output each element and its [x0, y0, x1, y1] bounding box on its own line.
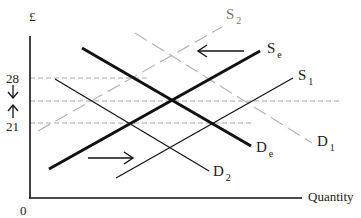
d2-subscript: 2	[226, 172, 231, 183]
s2-letter: S	[226, 6, 234, 22]
y-axis-label: £	[29, 10, 36, 23]
d1-letter: D	[317, 133, 328, 149]
demand-shift-right-arrow-icon	[88, 152, 133, 164]
s1-letter: S	[298, 67, 306, 83]
s2-subscript: 2	[236, 15, 241, 26]
s1-label: S1	[298, 68, 313, 83]
se-letter: S	[267, 40, 275, 56]
s1-subscript: 1	[308, 76, 313, 87]
s1-curve	[116, 78, 293, 178]
supply-demand-diagram	[0, 0, 361, 218]
price-down-arrow-icon	[8, 85, 18, 98]
d2-letter: D	[213, 163, 224, 179]
de-subscript: e	[269, 148, 273, 159]
x-axis-label: Quantity	[308, 190, 354, 203]
d1-label: D1	[317, 134, 335, 149]
de-letter: D	[256, 139, 267, 155]
s2-label: S2	[226, 7, 241, 22]
price-high-label: 28	[6, 72, 19, 85]
d1-curve	[135, 33, 312, 143]
d1-subscript: 1	[330, 142, 335, 153]
s2-curve	[38, 27, 222, 131]
origin-label: 0	[20, 204, 27, 217]
se-subscript: e	[277, 49, 281, 60]
se-curve	[49, 51, 260, 169]
d2-label: D2	[213, 164, 231, 179]
de-curve	[82, 48, 251, 146]
price-low-label: 21	[6, 120, 19, 133]
de-label: De	[256, 140, 273, 155]
supply-shift-left-arrow-icon	[198, 45, 244, 57]
price-up-arrow-icon	[8, 105, 18, 118]
se-label: Se	[267, 41, 282, 56]
